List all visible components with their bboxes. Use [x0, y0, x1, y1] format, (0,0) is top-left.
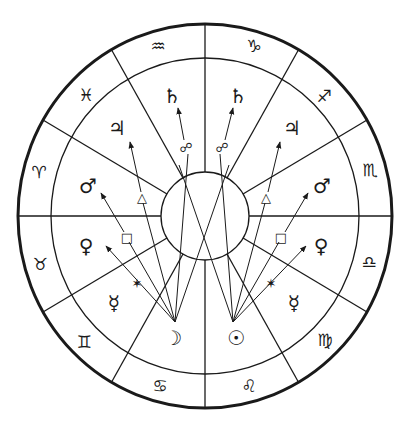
trine-glyph-left: △: [137, 190, 147, 205]
planet-venus-right: ♀: [314, 234, 329, 258]
aspect-line-opposition-saturn: [178, 108, 184, 140]
sign-taurus: ♉: [32, 254, 47, 274]
planet-jupiter-right: ♃: [283, 116, 301, 140]
sign-cancer: ♋: [152, 376, 167, 396]
sign-gemini: ♊: [76, 332, 91, 352]
sign-leo: ♌: [241, 376, 256, 396]
sign-scorpio: ♏: [362, 160, 377, 180]
astrological-chart: ♒ ♑ ♐ ♏ ♎ ♍ ♌ ♋ ♊ ♉ ♈ ♓ ☍ △ □: [0, 0, 411, 425]
planet-mars-left: ♂: [79, 174, 97, 198]
aspect-line-trine-jupiter: [130, 142, 141, 192]
planet-moon: ☽: [164, 326, 182, 350]
planet-jupiter-left: ♃: [108, 116, 126, 140]
planet-mercury-right: ☿: [288, 291, 300, 315]
sextile-glyph-left: ✶: [132, 276, 143, 291]
sign-libra: ♎: [361, 252, 376, 272]
sign-aries: ♈: [31, 162, 46, 182]
square-glyph-right: □: [275, 230, 287, 245]
sign-pisces: ♓: [78, 85, 93, 105]
planet-saturn-right: ♄: [229, 84, 247, 108]
planet-mercury-left: ☿: [108, 291, 120, 315]
aspect-line-square-mars: [285, 193, 308, 232]
center-circle: [161, 172, 249, 260]
sextile-glyph-right: ✶: [266, 276, 277, 291]
opposition-glyph-right: ☍: [215, 140, 228, 155]
sign-sagittarius: ♐: [316, 86, 331, 106]
square-glyph-left: □: [121, 230, 133, 245]
aspect-line-opposition-saturn: [225, 108, 233, 140]
sign-virgo: ♍: [317, 330, 332, 350]
planet-sun: ☉: [227, 326, 245, 350]
aspect-line-square-mars: [101, 193, 124, 232]
trine-glyph-right: △: [261, 190, 271, 205]
planet-saturn-left: ♄: [163, 84, 181, 108]
planet-mars-right: ♂: [313, 174, 331, 198]
planet-venus-left: ♀: [79, 234, 94, 258]
aspect-line-trine-jupiter: [268, 142, 280, 192]
sign-capricorn: ♑: [246, 36, 261, 56]
sign-aquarius: ♒: [150, 36, 165, 56]
opposition-glyph-left: ☍: [179, 140, 192, 155]
